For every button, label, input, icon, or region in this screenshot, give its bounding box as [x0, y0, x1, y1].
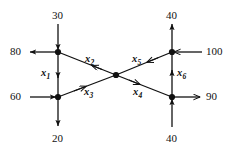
node-bottom-right	[169, 94, 175, 100]
variable-x4-base: x	[133, 86, 138, 97]
node-top-right	[169, 49, 175, 55]
variable-label-x6: x6	[177, 68, 186, 79]
variable-label-x1: x1	[41, 68, 50, 79]
diagram-canvas	[0, 0, 231, 153]
edge-x4	[116, 75, 172, 97]
variable-label-x2: x2	[85, 54, 94, 65]
variable-x2-subscript: 2	[91, 58, 95, 67]
variable-label-x4: x4	[133, 87, 142, 98]
network-flow-diagram: 30 40 80 100 60 90 20 40 x1 x2 x3 x4 x5 …	[0, 0, 231, 153]
variable-label-x5: x5	[132, 54, 141, 65]
variable-x6-subscript: 6	[183, 72, 187, 81]
flow-label-bottom-right-inflow: 40	[166, 133, 177, 144]
variable-label-x3: x3	[84, 87, 93, 98]
flow-label-top-right-outflow: 40	[166, 10, 177, 21]
flow-label-top-left-inflow: 30	[52, 10, 63, 21]
variable-x3-base: x	[84, 86, 89, 97]
variable-x5-subscript: 5	[138, 58, 142, 67]
flow-label-right-bottom-outflow: 90	[206, 91, 217, 102]
flow-label-right-top-inflow: 100	[206, 46, 223, 57]
variable-x5-base: x	[132, 53, 137, 64]
variable-x4-subscript: 4	[139, 91, 143, 100]
node-bottom-left	[55, 94, 61, 100]
node-center	[113, 72, 119, 78]
edge-x4-arrowhead	[129, 80, 140, 84]
flow-label-left-bottom-inflow: 60	[10, 91, 21, 102]
edge-x5	[116, 52, 172, 75]
variable-x1-subscript: 1	[47, 72, 51, 81]
variable-x2-base: x	[85, 53, 90, 64]
flow-label-left-top-outflow: 80	[10, 46, 21, 57]
node-top-left	[55, 49, 61, 55]
variable-x1-base: x	[41, 67, 46, 78]
edge-x5-arrowhead	[147, 58, 158, 63]
flow-label-bottom-left-outflow: 20	[52, 133, 63, 144]
variable-x3-subscript: 3	[90, 91, 94, 100]
variable-x6-base: x	[177, 67, 182, 78]
